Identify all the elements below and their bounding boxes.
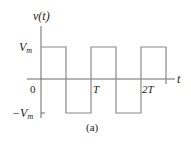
square-wave-diagram: v(t) t Vm −Vm 0 T 2T (a) xyxy=(0,0,191,154)
x-axis-label: t xyxy=(177,72,181,86)
neg-vm-label: −Vm xyxy=(12,106,33,121)
square-waveform xyxy=(41,47,166,113)
x-tick-0: 0 xyxy=(30,83,36,95)
x-tick-2T: 2T xyxy=(142,83,155,95)
y-axis-label: v(t) xyxy=(33,9,50,23)
vm-label: Vm xyxy=(19,40,32,55)
x-tick-T: T xyxy=(93,83,100,95)
figure-caption: (a) xyxy=(86,121,99,134)
